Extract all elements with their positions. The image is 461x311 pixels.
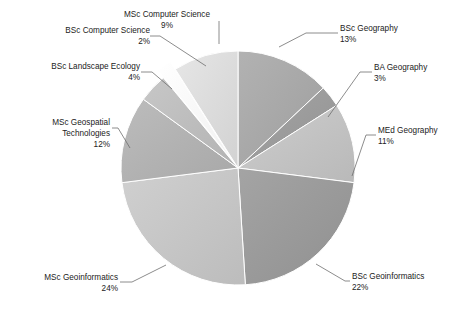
slice-label-text: MSc Computer Science bbox=[112, 9, 222, 20]
pie-slices-group bbox=[121, 51, 355, 285]
slice-label-percent: 11% bbox=[378, 136, 461, 147]
pie-slice[interactable] bbox=[122, 168, 245, 285]
slice-label-text: BSc Landscape Ecology bbox=[0, 61, 140, 72]
slice-label-percent: 24% bbox=[0, 283, 118, 294]
leader-line bbox=[316, 264, 350, 281]
slice-label-text: MSc Geospatial bbox=[0, 117, 110, 128]
pie-chart: BSc Computer Science 2% MSc Computer Sci… bbox=[0, 0, 461, 311]
slice-label-msc-geoinformatics: MSc Geoinformatics 24% bbox=[0, 272, 118, 294]
slice-label-percent: 3% bbox=[374, 73, 459, 84]
slice-label-percent: 12% bbox=[0, 139, 110, 150]
slice-label-text: BSc Geoinformatics bbox=[352, 271, 457, 282]
slice-label-percent: 9% bbox=[112, 20, 222, 31]
leader-line bbox=[120, 265, 166, 282]
slice-label-bsc-geography: BSc Geography 13% bbox=[340, 23, 455, 45]
slice-label-msc-computer-science: MSc Computer Science 9% bbox=[112, 9, 222, 31]
slice-label-med-geography: MEd Geography 11% bbox=[378, 125, 461, 147]
slice-label-text: BA Geography bbox=[374, 62, 459, 73]
leader-line bbox=[352, 135, 376, 176]
pie-slice[interactable] bbox=[238, 168, 354, 285]
slice-label-ba-geography: BA Geography 3% bbox=[374, 62, 459, 84]
leader-line bbox=[279, 33, 338, 47]
slice-label-percent: 13% bbox=[340, 34, 455, 45]
slice-label-bsc-landscape-ecology: BSc Landscape Ecology 4% bbox=[0, 61, 140, 83]
slice-label-msc-geospatial-technologies: MSc Geospatial Technologies 12% bbox=[0, 117, 110, 150]
slice-label-bsc-geoinformatics: BSc Geoinformatics 22% bbox=[352, 271, 457, 293]
slice-label-text: MEd Geography bbox=[378, 125, 461, 136]
slice-label-text-2: Technologies bbox=[0, 128, 110, 139]
slice-label-percent: 4% bbox=[0, 72, 140, 83]
slice-label-text: BSc Geography bbox=[340, 23, 455, 34]
slice-label-percent: 2% bbox=[0, 36, 150, 47]
slice-label-text: MSc Geoinformatics bbox=[0, 272, 118, 283]
slice-label-percent: 22% bbox=[352, 282, 457, 293]
